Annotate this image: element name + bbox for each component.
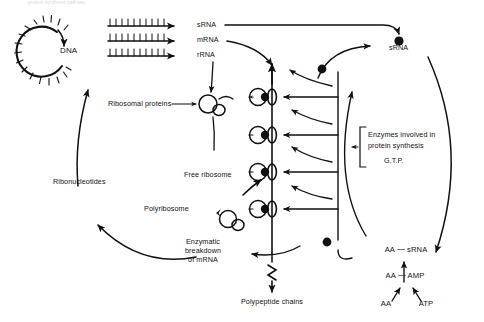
dissociating-subunits	[216, 209, 244, 231]
label-srna-transcript: sRNA	[197, 21, 216, 30]
label-rrna-transcript: rRNA	[197, 51, 215, 60]
label-aa-srna: AA ⁓ sRNA	[372, 246, 440, 255]
label-free-ribosome: Free ribosome	[184, 171, 232, 180]
aa-activation-arrows	[392, 262, 421, 301]
label-aa-amp: AA ⁓ AMP	[374, 272, 436, 281]
srna-release-arrow	[318, 46, 370, 78]
charged-srna-arc	[345, 92, 366, 236]
label-ribosomal-proteins: Ribosomal proteins	[108, 100, 171, 109]
label-mrna-transcript: mRNA	[197, 36, 219, 45]
label-enzymatic-breakdown-3: of mRNA	[168, 256, 238, 265]
label-polyribosome: Polyribosome	[144, 205, 189, 214]
label-aa: AA	[374, 300, 398, 309]
label-ribonucleotides: Ribonucleotides	[53, 178, 106, 187]
label-enzymes-line1: Enzymes involved in	[368, 131, 435, 140]
label-gtp: G.T.P.	[384, 157, 404, 166]
polypeptide-zigzag	[268, 265, 276, 280]
srna-recycle-arc	[428, 57, 451, 252]
srna-dot-lower	[323, 238, 332, 247]
transcript-ticks	[110, 19, 164, 56]
figure-canvas: protein synthesis pathway	[0, 0, 484, 322]
label-enzymes-line2: protein synthesis	[368, 142, 424, 151]
ribonucleotide-to-dna-arrow	[77, 90, 88, 186]
breakdown-arrow	[252, 246, 300, 255]
enzymes-bracket	[352, 127, 366, 167]
label-atp: ATP	[412, 300, 440, 309]
mrna-to-ribosome-arrow	[227, 41, 272, 65]
polyribosome-pointer	[243, 180, 261, 195]
rrna-to-proteins-arrow	[211, 62, 213, 92]
label-dna: DNA	[60, 47, 77, 56]
srna-transcript-arrow	[225, 25, 399, 34]
ribosome-assembly-group	[172, 95, 233, 150]
label-srna-pool: sRNA	[389, 44, 408, 53]
enzyme-feed-arrows	[284, 97, 338, 209]
label-polypeptide-chains: Polypeptide chains	[222, 298, 322, 307]
